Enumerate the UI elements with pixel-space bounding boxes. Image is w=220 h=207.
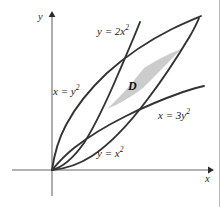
region-label-d: D (128, 80, 137, 92)
curve-x-eq-3y2 (52, 86, 204, 170)
curve-label-x-eq-y2: x = y2 (53, 86, 79, 97)
region-d-fill (107, 49, 181, 109)
y-axis-arrowhead (49, 11, 56, 17)
math-figure: y = 2x2 x = y2 x = 3y2 y = x2 y x D (0, 0, 220, 207)
curve-label-y-eq-x2: y = x2 (97, 148, 123, 159)
y-axis-label: y (38, 12, 43, 23)
curve-label-x-eq-3y2: x = 3y2 (158, 110, 190, 121)
x-axis-label: x (205, 174, 210, 185)
curve-label-y-eq-2x2: y = 2x2 (97, 26, 129, 37)
